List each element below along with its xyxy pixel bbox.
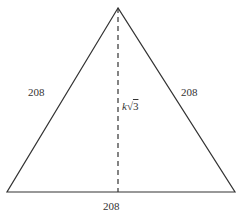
altitude-label: k√3 bbox=[122, 100, 138, 112]
radicand: 3 bbox=[133, 100, 139, 112]
triangle bbox=[7, 8, 235, 192]
triangle-diagram bbox=[0, 0, 240, 217]
base-label: 208 bbox=[103, 200, 120, 212]
left-side-label: 208 bbox=[28, 86, 45, 98]
right-side-label: 208 bbox=[181, 86, 198, 98]
